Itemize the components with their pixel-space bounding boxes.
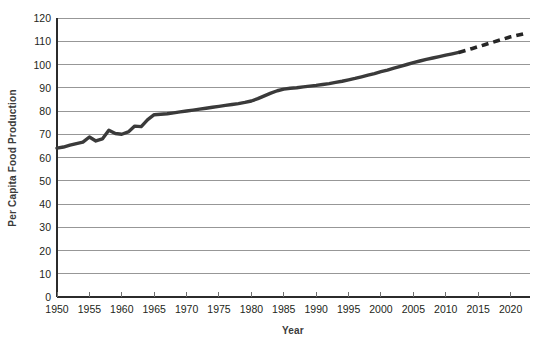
- series-line-projected: [459, 34, 524, 53]
- gridlines: [57, 18, 530, 274]
- x-tick-label: 2000: [369, 303, 393, 315]
- y-tick-label: 100: [33, 59, 51, 71]
- x-tick-label: 1980: [240, 303, 264, 315]
- y-tick-label: 90: [39, 82, 51, 94]
- y-tick-label: 120: [33, 12, 51, 24]
- x-tick-label: 1970: [175, 303, 199, 315]
- y-tick-label: 20: [39, 245, 51, 257]
- x-tick-marks: [57, 292, 511, 297]
- x-tick-label: 2005: [402, 303, 426, 315]
- x-tick-label: 1990: [304, 303, 328, 315]
- y-axis-title: Per Capita Food Production: [7, 89, 18, 226]
- y-tick-label: 0: [45, 291, 51, 303]
- x-tick-label: 2020: [499, 303, 523, 315]
- y-tick-label: 30: [39, 221, 51, 233]
- y-tick-labels: 0102030405060708090100110120: [33, 12, 51, 303]
- x-axis-title: Year: [282, 325, 304, 336]
- y-tick-label: 50: [39, 175, 51, 187]
- y-tick-label: 60: [39, 152, 51, 164]
- x-tick-label: 2015: [466, 303, 490, 315]
- y-tick-label: 80: [39, 105, 51, 117]
- x-tick-label: 1995: [337, 303, 361, 315]
- line-chart: 0102030405060708090100110120 19501955196…: [0, 0, 546, 350]
- x-tick-label: 1965: [143, 303, 167, 315]
- x-tick-label: 2010: [434, 303, 458, 315]
- y-tick-label: 70: [39, 128, 51, 140]
- y-tick-label: 10: [39, 268, 51, 280]
- x-tick-label: 1975: [207, 303, 231, 315]
- x-tick-labels: 1950195519601965197019751980198519901995…: [45, 303, 522, 315]
- x-tick-label: 1960: [110, 303, 134, 315]
- x-tick-label: 1955: [78, 303, 102, 315]
- y-tick-label: 40: [39, 198, 51, 210]
- x-tick-label: 1950: [45, 303, 69, 315]
- chart-figure: 0102030405060708090100110120 19501955196…: [0, 0, 546, 350]
- x-tick-label: 1985: [272, 303, 296, 315]
- y-tick-label: 110: [34, 35, 51, 47]
- data-series-group: [57, 34, 524, 148]
